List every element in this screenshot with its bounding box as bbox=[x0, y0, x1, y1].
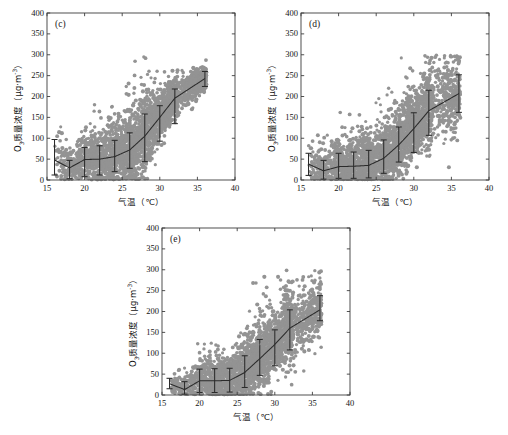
panel-e-ytick-250: 250 bbox=[137, 285, 159, 295]
panel-e-ytick-400: 400 bbox=[137, 223, 159, 233]
panel-e-ytick-300: 300 bbox=[137, 264, 159, 274]
panel-e-ytick-200: 200 bbox=[137, 306, 159, 316]
panel-e-label: (e) bbox=[170, 234, 181, 244]
panel-e-canvas bbox=[0, 0, 508, 435]
panel-e-xtick-15: 15 bbox=[152, 398, 172, 408]
panel-e-scatter-points bbox=[169, 268, 323, 396]
panel-e-yaxis-title: O3质量浓度（μg·m-3） bbox=[126, 274, 140, 366]
panel-e-xtick-20: 20 bbox=[190, 398, 210, 408]
panel-e-xaxis-title: 气温（℃） bbox=[216, 410, 296, 422]
panel-e-xtick-25: 25 bbox=[227, 398, 247, 408]
panel-e-xtick-40: 40 bbox=[340, 398, 360, 408]
figure-root: (c)152025303540050100150200250300350400气… bbox=[0, 0, 508, 435]
panel-e: (e)152025303540050100150200250300350400气… bbox=[0, 0, 508, 435]
panel-e-ytick-150: 150 bbox=[137, 327, 159, 337]
panel-e-ytick-350: 350 bbox=[137, 243, 159, 253]
panel-e-ytick-50: 50 bbox=[137, 369, 159, 379]
panel-e-ytick-100: 100 bbox=[137, 348, 159, 358]
panel-e-xtick-30: 30 bbox=[265, 398, 285, 408]
panel-e-ytick-0: 0 bbox=[137, 390, 159, 400]
panel-e-xtick-35: 35 bbox=[302, 398, 322, 408]
